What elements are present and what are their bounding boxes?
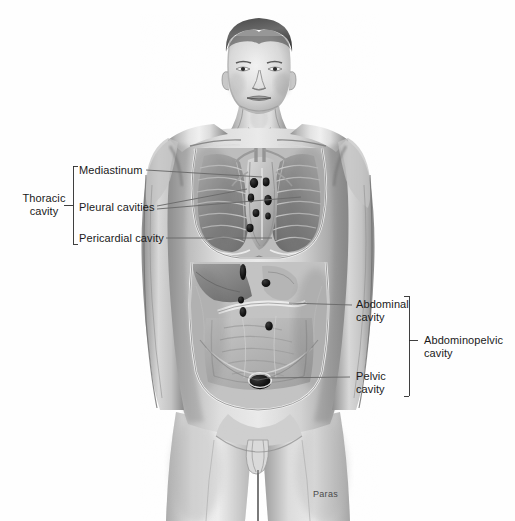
anatomical-illustration	[0, 0, 515, 521]
label-pleural-cavities: Pleural cavities	[79, 201, 155, 214]
label-pelvic-cavity: Pelvic cavity	[356, 370, 386, 395]
body-cavities-figure: Thoracic cavity Mediastinum Pleural cavi…	[0, 0, 515, 521]
label-thoracic-cavity: Thoracic cavity	[18, 192, 70, 217]
label-mediastinum: Mediastinum	[79, 164, 142, 177]
body-figure	[140, 14, 380, 521]
label-abdominopelvic-cavity: Abdominopelvic cavity	[424, 334, 503, 359]
artist-signature: Paras	[313, 489, 338, 499]
label-abdominal-cavity: Abdominal cavity	[356, 298, 409, 323]
label-pericardial-cavity: Pericardial cavity	[79, 232, 164, 245]
